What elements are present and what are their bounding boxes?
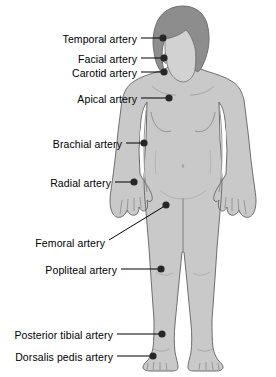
marker-dots-group: [130, 34, 172, 359]
pulse-point-marker-popliteal: [157, 265, 164, 272]
pulse-point-marker-carotid: [160, 68, 167, 75]
label-femoral: Femoral artery: [35, 238, 105, 249]
leader-line-femoral: [109, 207, 163, 240]
label-popliteal: Popliteal artery: [45, 265, 117, 276]
pulse-point-marker-posterior-tibial: [158, 330, 165, 337]
label-apical: Apical artery: [77, 94, 137, 105]
pulse-point-marker-apical: [165, 94, 172, 101]
pulse-point-marker-radial: [130, 178, 137, 185]
label-temporal: Temporal artery: [63, 34, 137, 45]
pulse-point-marker-brachial: [140, 139, 147, 146]
pulse-point-marker-femoral: [162, 201, 169, 208]
pulse-point-marker-facial: [160, 54, 167, 61]
anatomy-diagram: Temporal arteryFacial arteryCarotid arte…: [0, 0, 276, 377]
label-posterior-tibial: Posterior tibial artery: [14, 330, 113, 341]
pulse-point-marker-dorsalis-pedis: [149, 352, 156, 359]
label-brachial: Brachial artery: [53, 139, 122, 150]
callout-overlay: [0, 0, 276, 377]
label-carotid: Carotid artery: [72, 68, 137, 79]
label-dorsalis-pedis: Dorsalis pedis artery: [15, 352, 113, 363]
pulse-point-marker-temporal: [159, 34, 166, 41]
label-radial: Radial artery: [50, 178, 111, 189]
label-facial: Facial artery: [78, 54, 137, 65]
leader-lines-group: [109, 38, 166, 356]
